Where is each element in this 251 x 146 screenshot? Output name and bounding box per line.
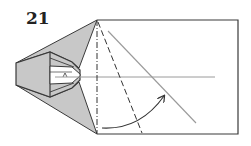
origami-diagram: [0, 0, 251, 146]
